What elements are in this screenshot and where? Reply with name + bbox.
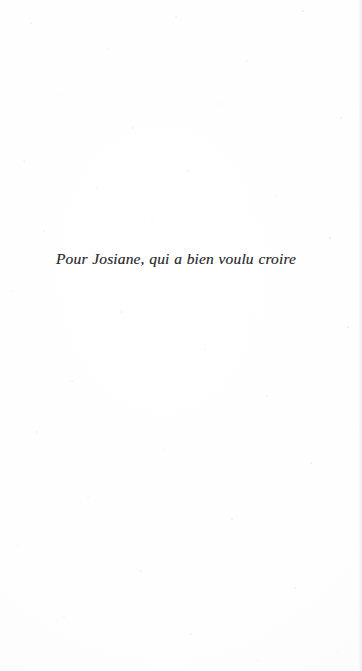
dedication-block: Pour Josiane, qui a bien voulu croire [0, 249, 362, 268]
paper-texture [0, 0, 362, 671]
page-right-edge-shadow [358, 0, 362, 671]
scan-speckles [0, 0, 362, 671]
book-page: Pour Josiane, qui a bien voulu croire [0, 0, 362, 671]
dedication-text: Pour Josiane, qui a bien voulu croire [56, 249, 296, 268]
